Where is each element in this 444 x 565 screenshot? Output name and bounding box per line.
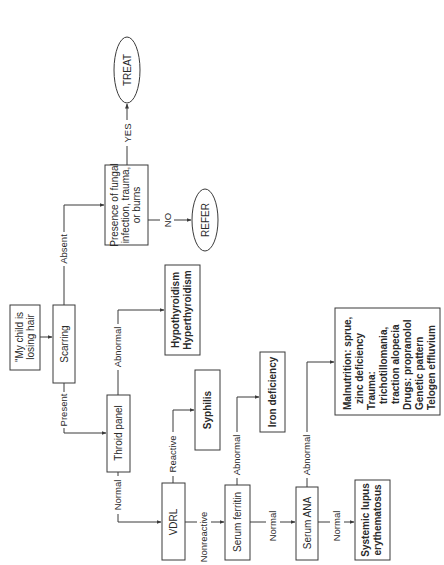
svg-text:Normal: Normal [267, 511, 278, 542]
svg-text:Present: Present [58, 393, 69, 426]
node-iron: Iron deficiency [260, 352, 285, 432]
svg-text:Drugs: propranolol: Drugs: propranolol [402, 319, 413, 410]
edge-label-thyroid-normal: Normal [112, 476, 124, 514]
edge-label-ana-normal: Normal [330, 507, 344, 545]
svg-text:Systemic lupus: Systemic lupus [360, 483, 371, 557]
svg-text:Serum ANA: Serum ANA [302, 497, 313, 550]
svg-text:losing hair: losing hair [25, 314, 36, 360]
svg-text:Absent: Absent [58, 234, 69, 264]
edge-scarring-present [64, 383, 106, 433]
svg-text:Serum ferritin: Serum ferritin [232, 492, 243, 552]
svg-text:Malnutrition: sprue,: Malnutrition: sprue, [342, 316, 353, 410]
edge-thyroid-abnormal [118, 310, 164, 395]
node-treat: TREAT [114, 37, 140, 103]
edge-label-ferritin-abnormal: Abnormal [231, 432, 243, 478]
svg-text:erythematosus: erythematosus [372, 484, 383, 556]
node-fungal: Presence of fungal infection, trauma, or… [105, 163, 148, 246]
svg-text:infection, trauma,: infection, trauma, [120, 167, 131, 244]
edge-label-reactive: Reactive [167, 432, 179, 476]
svg-text:"My child is: "My child is [14, 312, 25, 362]
svg-text:Hypothyroidism: Hypothyroidism [170, 272, 181, 348]
node-scarring: Scarring [53, 305, 75, 383]
svg-text:Hyperthyroidism: Hyperthyroidism [182, 270, 193, 350]
svg-text:Trauma:: Trauma: [366, 371, 377, 410]
node-ferritin: Serum ferritin [225, 485, 250, 560]
svg-text:Presence of fungal: Presence of fungal [109, 163, 120, 246]
edge-label-ana-abnormal: Abnormal [301, 432, 313, 478]
edge-label-ferritin-normal: Normal [266, 507, 280, 545]
svg-text:trichotillomania,: trichotillomania, [378, 327, 389, 404]
node-vdrl: VDRL [162, 483, 185, 560]
svg-text:Reactive: Reactive [167, 436, 178, 473]
edge-thyroid-normal [118, 472, 161, 522]
svg-text:TREAT: TREAT [122, 54, 133, 86]
svg-text:traction alopecia: traction alopecia [390, 324, 401, 404]
svg-text:NO: NO [162, 213, 173, 227]
svg-text:Abnormal: Abnormal [231, 435, 242, 476]
svg-text:REFER: REFER [200, 203, 211, 237]
svg-text:VDRL: VDRL [168, 508, 179, 535]
svg-text:Nonreactive: Nonreactive [198, 512, 209, 563]
edge-label-present: Present [58, 392, 70, 428]
node-thyroid-panel: Throid panel [107, 395, 130, 472]
node-syphilis: Syphilis [195, 370, 220, 450]
node-refer: REFER [192, 189, 218, 251]
svg-text:Normal: Normal [112, 480, 123, 511]
svg-text:Abnormal: Abnormal [112, 327, 123, 368]
node-thyroid-dx: Hypothyroidism Hyperthyroidism [165, 265, 200, 355]
edge-label-absent: Absent [58, 232, 70, 266]
edge-label-yes: YES [121, 120, 133, 146]
edge-label-no: NO [160, 213, 174, 227]
svg-text:YES: YES [122, 123, 133, 142]
svg-text:zinc deficiency: zinc deficiency [354, 332, 365, 404]
svg-text:or burns: or burns [131, 187, 142, 224]
svg-text:Telogen effluvium: Telogen effluvium [426, 325, 437, 410]
edge-label-nonreactive: Nonreactive [197, 507, 211, 565]
edge-label-thyroid-abnormal: Abnormal [112, 324, 124, 370]
node-sle: Systemic lupus erythematosus [355, 480, 390, 560]
node-ana: Serum ANA [296, 487, 318, 560]
svg-text:Iron deficiency: Iron deficiency [267, 356, 278, 427]
svg-text:Throid panel: Throid panel [113, 405, 124, 461]
node-start: "My child is losing hair [10, 305, 40, 370]
svg-text:Abnormal: Abnormal [301, 435, 312, 476]
hair-loss-flowchart: Absent Present YES NO Abnormal Normal Re… [0, 0, 444, 565]
node-other-dx: Malnutrition: sprue, zinc deficiency Tra… [335, 308, 440, 415]
svg-text:Genetic pattern: Genetic pattern [414, 337, 425, 410]
svg-text:Syphilis: Syphilis [202, 390, 213, 429]
svg-text:Scarring: Scarring [59, 325, 70, 362]
svg-text:Normal: Normal [331, 511, 342, 542]
